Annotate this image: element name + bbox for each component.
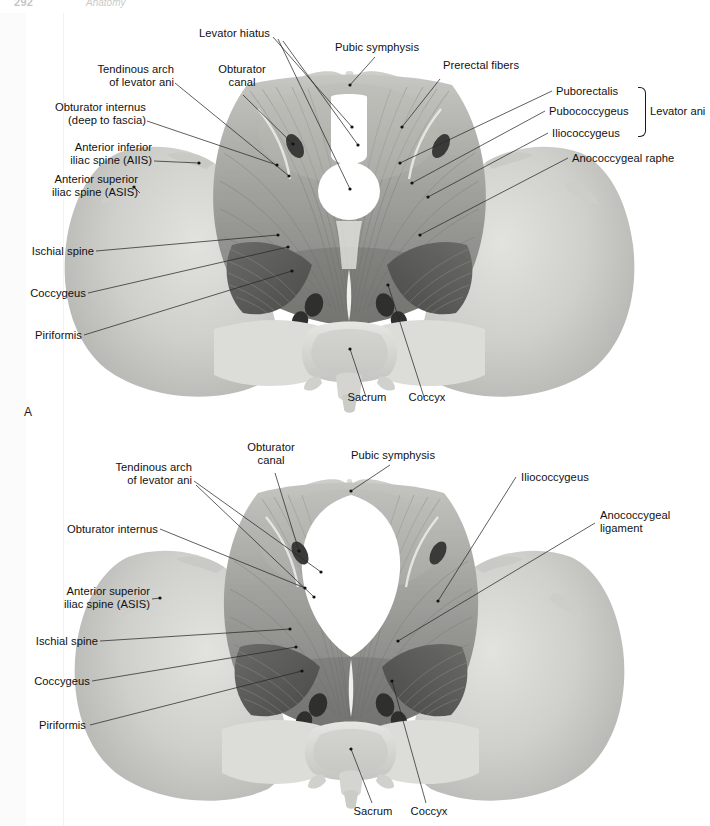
label-obturator-canal-a: Obturator canal [182,63,302,88]
anococcygeal-ligament-shape [349,659,354,717]
label-obturator-canal-b: Obturator canal [212,441,330,466]
right-iliac-wing-b [411,551,625,801]
figure-a-letter: A [24,405,32,419]
label-pubic-symphysis-a: Pubic symphysis [318,41,436,54]
label-iliococcygeus-b: Iliococcygeus [521,471,633,484]
right-coccygeus [387,242,472,314]
sacral-foramen-l2 [289,309,310,333]
label-aiis: Anterior inferior iliac spine (AIIS) [10,141,152,166]
label-prerectal-fibers: Prerectal fibers [443,59,573,72]
muscle-fiber-striations-b [230,489,472,745]
figure-b-artwork [0,433,697,826]
page-header-content: 292 Anatomy [0,0,697,12]
right-obturator-canal [428,131,453,161]
muscle-fiber-striations [220,83,479,339]
figure-b-leader-lines [90,465,595,803]
vaginal-aperture [318,162,380,220]
sacrum-body [302,322,398,383]
label-coccygeus-b: Coccygeus [10,675,90,688]
label-iliococcygeus-a: Iliococcygeus [552,127,664,140]
label-anococcygeal-raphe: Anococcygeal raphe [572,152,700,165]
label-coccyx-a: Coccyx [392,391,462,404]
label-coccygeus-a: Coccygeus [6,287,86,300]
right-pubic-body-b [352,479,405,523]
label-piriformis-b: Piriformis [10,719,86,732]
label-pubic-symphysis-b: Pubic symphysis [334,449,452,462]
label-levator-hiatus: Levator hiatus [120,27,270,40]
levator-ani-sheet [213,75,486,326]
levator-ani-bracket [638,87,646,137]
pubic-symphysis-shape [346,71,354,117]
right-sacral-ala-b [369,720,479,784]
male-levator-hiatus [302,495,400,657]
figure-b: Obturator canal Pubic symphysis Tendinou… [0,433,697,826]
pubic-symphysis-shape-b [347,479,352,525]
label-coccyx-b: Coccyx [394,805,464,818]
sacral-foramen-bl1 [306,691,331,719]
label-asis-b: Anterior superior iliac spine (ASIS) [14,585,150,610]
sacral-foramen-br2 [388,709,409,733]
page-number: 292 [14,0,33,8]
label-anococcygeal-ligament: Anococcygeal ligament [600,509,710,534]
label-asis-a: Anterior superior iliac spine (ASIS) [6,173,138,198]
left-sacral-ala [214,320,330,386]
label-ischial-spine-a: Ischial spine [6,245,94,258]
sacral-foramen-bl2 [293,709,314,733]
right-pubic-body [355,71,409,117]
label-levator-ani-group: Levator ani [650,105,710,118]
page-header: 292 Anatomy [0,0,697,13]
label-puborectalis: Puborectalis [556,85,666,98]
left-coccygeus-b [235,644,320,716]
sacrum-body-b [305,722,397,781]
coccyx-shape-b [339,771,363,798]
anococcygeal-raphe-shape [347,269,352,321]
left-obturator-canal [282,131,307,161]
rectal-raphe [336,221,362,269]
left-obturator-canal-b [288,539,312,568]
figure-a-leader-lines [84,37,568,397]
right-iliac-wing [421,147,635,397]
running-head: Anatomy [86,0,125,8]
label-tendinous-arch-a: Tendinous arch of levator ani [28,63,174,88]
sacral-foramen-r2 [388,309,409,333]
label-tendinous-arch-b: Tendinous arch of levator ani [46,461,192,486]
sacral-foramen-br1 [373,691,398,719]
left-sacral-ala-b [222,720,332,784]
right-obturator-canal-b [426,539,450,568]
urethral-aperture [331,94,367,164]
figure-a: Levator hiatus Obturator canal Pubic sym… [0,13,697,433]
right-sacral-ala [369,320,485,386]
sacral-foramen-r1 [373,291,398,319]
label-piriformis-a: Piriformis [6,329,82,342]
levator-ani-sheet-b [224,483,478,734]
left-coccygeus [227,242,312,314]
right-coccygeus-b [382,644,467,716]
sacral-foramen-l1 [302,291,327,319]
label-ischial-spine-b: Ischial spine [10,635,98,648]
label-obturator-internus-b: Obturator internus [22,523,158,536]
label-obturator-internus-a: Obturator internus (deep to fascia) [8,101,146,126]
left-pubic-body-b [294,479,347,523]
